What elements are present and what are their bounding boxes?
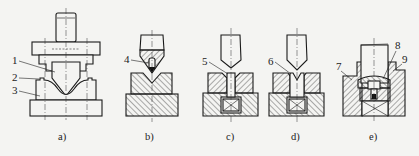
caption-a: a) <box>58 131 67 143</box>
callout-2: 2 <box>12 71 18 83</box>
holder-left-wall <box>343 62 362 116</box>
callout-5: 5 <box>202 55 208 67</box>
callout-9: 9 <box>402 53 408 65</box>
bending-die-diagram: 1 2 3 a) 4 b) <box>0 0 419 156</box>
panel-c: 5 c) <box>202 28 258 143</box>
caption-b: b) <box>145 131 154 143</box>
die-right <box>304 73 320 93</box>
caption-e: e) <box>369 131 378 143</box>
callout-3: 3 <box>12 84 18 96</box>
callout-6: 6 <box>268 55 274 67</box>
v-die <box>131 73 172 94</box>
callout-8: 8 <box>395 39 401 51</box>
caption-d: d) <box>291 131 300 143</box>
callout-7: 7 <box>336 60 342 72</box>
panel-e: 7 8 9 e) <box>336 38 408 143</box>
die-left <box>273 73 290 93</box>
callout-1: 1 <box>12 54 18 66</box>
caption-c: c) <box>226 131 235 143</box>
die-right <box>235 73 253 93</box>
die-left <box>208 73 227 93</box>
panel-b: 4 b) <box>124 30 178 143</box>
panel-a: 1 2 3 a) <box>12 8 102 143</box>
panel-d: 6 d) <box>268 28 324 143</box>
callout-4: 4 <box>124 53 130 65</box>
